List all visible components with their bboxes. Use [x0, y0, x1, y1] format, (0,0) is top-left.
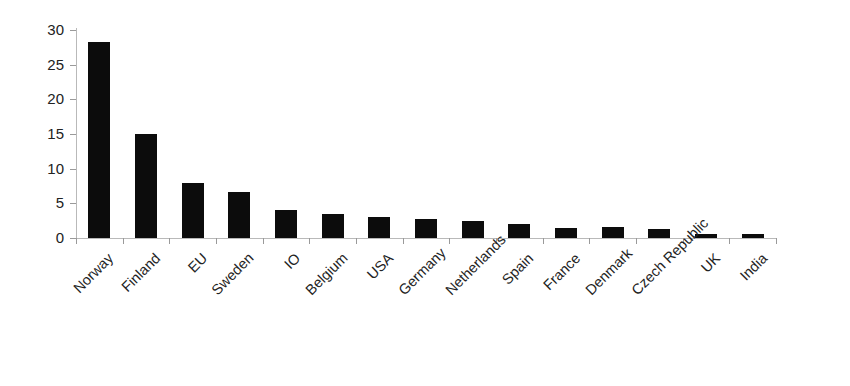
x-axis-line — [76, 238, 776, 239]
x-axis-tick — [263, 238, 264, 244]
bar — [508, 224, 530, 238]
x-axis-category-label: USA — [349, 250, 397, 298]
y-axis-tick-label: 15 — [38, 126, 64, 141]
x-axis-category-label: Norway — [69, 250, 117, 298]
x-axis-category-label: Finland — [115, 250, 163, 298]
plot-area — [76, 30, 776, 238]
x-axis-tick — [356, 238, 357, 244]
x-axis-category-label: Germany — [395, 250, 443, 298]
y-axis-tick-label: 30 — [38, 22, 64, 37]
x-axis-tick — [449, 238, 450, 244]
x-axis-tick — [216, 238, 217, 244]
x-axis-category-label: Denmark — [582, 250, 630, 298]
bar — [555, 228, 577, 238]
x-axis-category-label: UK — [675, 250, 723, 298]
bar — [228, 192, 250, 238]
bar — [275, 210, 297, 238]
y-axis-tick-label: 20 — [38, 91, 64, 106]
x-axis-tick — [123, 238, 124, 244]
y-axis-tick-label: 10 — [38, 161, 64, 176]
y-axis-tick-label: 0 — [38, 230, 64, 245]
y-axis-tick-label: 5 — [38, 195, 64, 210]
x-axis-tick — [729, 238, 730, 244]
bar — [88, 42, 110, 238]
bar — [742, 234, 764, 238]
y-axis-tick-label: 25 — [38, 57, 64, 72]
bar-chart: 051015202530 NorwayFinlandEUSwedenIOBelg… — [0, 0, 850, 386]
x-axis-category-label: Czech Republic — [629, 250, 677, 298]
x-axis-category-label: Spain — [489, 250, 537, 298]
x-axis-tick — [169, 238, 170, 244]
x-axis-category-label: IO — [255, 250, 303, 298]
bar — [602, 227, 624, 238]
x-axis-category-label: France — [535, 250, 583, 298]
bar — [135, 134, 157, 238]
bar — [415, 219, 437, 238]
x-axis-tick — [76, 238, 77, 244]
x-axis-tick — [589, 238, 590, 244]
x-axis-category-label: EU — [162, 250, 210, 298]
x-axis-category-label: Belgium — [302, 250, 350, 298]
bar — [322, 214, 344, 238]
bar — [648, 229, 670, 238]
x-axis-category-label: Sweden — [209, 250, 257, 298]
bar — [368, 217, 390, 238]
x-axis-tick — [309, 238, 310, 244]
bar — [182, 183, 204, 238]
x-axis-tick — [636, 238, 637, 244]
x-axis-category-label: India — [722, 250, 770, 298]
x-axis-tick — [543, 238, 544, 244]
x-axis-category-label: Netherlands — [442, 250, 490, 298]
bar — [462, 221, 484, 238]
x-axis-tick — [403, 238, 404, 244]
x-axis-tick — [776, 238, 777, 244]
